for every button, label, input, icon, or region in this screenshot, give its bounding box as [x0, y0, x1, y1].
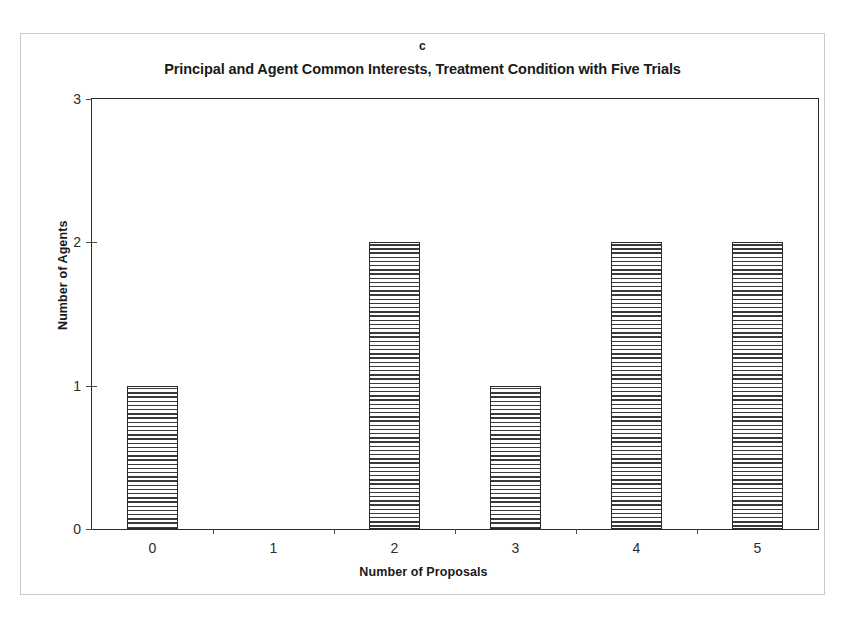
- x-tick-boundary-1: [213, 529, 214, 534]
- y-tick-2: [86, 242, 92, 243]
- bar-3: [490, 386, 541, 529]
- y-tick-0: [86, 529, 92, 530]
- plot-inner-surface: 3 2 1 0 0 1 2 3 4 5: [92, 99, 818, 529]
- panel-letter: c: [21, 39, 824, 53]
- x-axis-label-5: 5: [754, 541, 762, 555]
- x-axis-title: Number of Proposals: [21, 565, 826, 579]
- x-axis-label-1: 1: [270, 541, 278, 555]
- bar-5: [732, 242, 783, 529]
- x-axis-label-0: 0: [149, 541, 157, 555]
- chart-title: Principal and Agent Common Interests, Tr…: [21, 61, 824, 78]
- bar-2: [369, 242, 420, 529]
- y-tick-mark-2: [92, 242, 97, 243]
- x-tick-boundary-2: [334, 529, 335, 534]
- x-axis-label-2: 2: [391, 541, 399, 555]
- y-tick-3: [86, 99, 92, 100]
- y-tick-1: [86, 386, 92, 387]
- y-axis-label-0: 0: [73, 522, 81, 536]
- bar-0: [127, 386, 178, 529]
- x-tick-boundary-5: [697, 529, 698, 534]
- x-axis-label-3: 3: [512, 541, 520, 555]
- x-tick-boundary-4: [576, 529, 577, 534]
- y-axis-label-2: 2: [73, 235, 81, 249]
- plot-area: 3 2 1 0 0 1 2 3 4 5: [91, 98, 819, 530]
- x-axis-label-4: 4: [633, 541, 641, 555]
- y-tick-mark-1: [92, 386, 97, 387]
- y-axis-label-1: 1: [73, 379, 81, 393]
- y-axis-title: Number of Agents: [56, 221, 70, 330]
- bar-4: [611, 242, 662, 529]
- x-tick-boundary-3: [455, 529, 456, 534]
- y-axis-label-3: 3: [73, 92, 81, 106]
- figure-border: c Principal and Agent Common Interests, …: [20, 33, 825, 595]
